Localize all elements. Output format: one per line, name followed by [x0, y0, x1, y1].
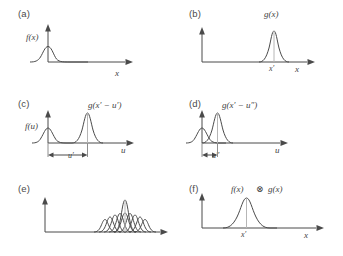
- panel-e-y-arrow: [42, 197, 48, 205]
- panel-a-curve-f: [30, 47, 88, 63]
- panel-d-plot: [171, 85, 343, 171]
- panel-b-x-arrow: [308, 59, 316, 65]
- panel-f-curve-conv: [223, 198, 277, 228]
- panel-f: (f) f(x) ⊗ g(x) x′ x: [171, 170, 343, 256]
- panel-c-x-arrow: [127, 140, 135, 146]
- panel-e-x-arrow: [161, 229, 169, 235]
- panel-c: (c) f(u) g(x′ − u′) u′ u: [0, 85, 172, 171]
- panel-a-plot: [0, 0, 172, 86]
- panel-c-offset-arrowhead-left: [48, 153, 54, 158]
- panel-c-curve-f: [32, 128, 72, 143]
- panel-c-y-arrow: [45, 110, 51, 118]
- panel-d-offset-arrowhead-right: [212, 153, 218, 158]
- panel-d-y-arrow: [199, 110, 205, 118]
- panel-f-x-arrow: [317, 225, 325, 231]
- panel-a-y-arrow: [45, 24, 51, 32]
- panel-c-offset-arrowhead-right: [82, 153, 88, 158]
- panel-d-x-arrow: [281, 140, 289, 146]
- panel-b-plot: [171, 0, 343, 86]
- panel-a-x-arrow: [126, 59, 134, 65]
- panel-d: (d) g(x′ − u″) u″ u: [171, 85, 343, 171]
- panel-f-y-arrow: [199, 193, 205, 201]
- panel-f-plot: [171, 170, 343, 256]
- panel-d-offset-arrowhead-left: [202, 153, 208, 158]
- panel-c-plot: [0, 85, 172, 171]
- panel-e: (e): [0, 170, 172, 256]
- panel-a: (a) f(x) x: [0, 0, 172, 86]
- convolution-figure: (a) f(x) x (b) g(x) x′ x: [0, 0, 343, 256]
- panel-b-y-arrow: [199, 27, 205, 35]
- panel-b: (b) g(x) x′ x: [171, 0, 343, 86]
- panel-e-plot: [0, 170, 172, 256]
